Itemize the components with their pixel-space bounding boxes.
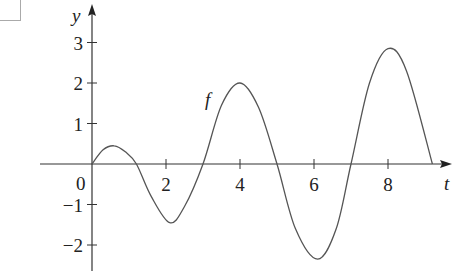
x-tick-label: 8 bbox=[383, 174, 393, 195]
x-tick-label: 6 bbox=[309, 174, 319, 195]
y-tick-label: 2 bbox=[74, 73, 84, 94]
y-tick-label: 1 bbox=[74, 114, 84, 135]
curve-label-f: f bbox=[205, 89, 213, 110]
y-tick-label: −2 bbox=[63, 235, 83, 256]
x-tick-label: 4 bbox=[235, 174, 245, 195]
curve-f bbox=[92, 48, 432, 259]
x-tick-label: 2 bbox=[161, 174, 171, 195]
origin-label: 0 bbox=[76, 173, 86, 194]
labels: y t 0 f 2468321−1−2 bbox=[63, 5, 450, 256]
y-tick-label: 3 bbox=[74, 33, 84, 54]
ticks bbox=[87, 43, 388, 246]
axes bbox=[40, 4, 452, 271]
y-axis-label: y bbox=[70, 5, 81, 26]
y-tick-label: −1 bbox=[63, 195, 83, 216]
function-graph: y t 0 f 2468321−1−2 bbox=[0, 0, 455, 271]
t-axis-label: t bbox=[444, 173, 450, 194]
